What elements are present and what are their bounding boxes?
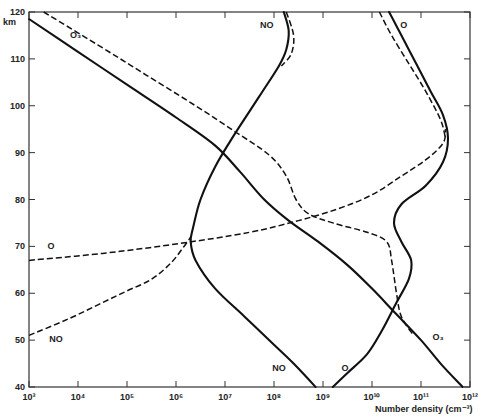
curve-label: O₃ [433,332,444,342]
y-tick-label: 100 [10,101,25,111]
curve-o-dashed-lower [29,129,446,260]
y-tick-label: 90 [15,148,25,158]
curve-label: O [400,20,407,30]
x-tick-label: 10⁵ [120,392,134,402]
curve-o3-dashed [44,12,414,335]
x-tick-label: 10⁴ [71,392,85,402]
x-tick-label: 10⁷ [218,392,232,402]
y-axis-title: km [3,17,16,27]
y-axis: 405060708090100110120 [10,7,470,392]
y-tick-label: 60 [15,288,25,298]
curve-label: NO [272,363,286,373]
curve-label: O₃ [70,30,81,40]
x-tick-label: 10⁶ [169,392,183,402]
y-tick-label: 80 [15,195,25,205]
curves [29,12,463,387]
x-tick-label: 10¹¹ [413,392,429,402]
x-axis: 10³10⁴10⁵10⁶10⁷10⁸10⁹10¹⁰10¹¹10¹² [22,12,478,402]
y-tick-label: 50 [15,335,25,345]
y-tick-label: 70 [15,241,25,251]
curve-label: O [48,241,55,251]
y-tick-label: 110 [10,54,25,64]
curve-labels: O₃NOOONONOOO₃ [48,20,444,372]
curve-o-solid [333,12,448,387]
x-tick-label: 10¹⁰ [363,392,380,402]
y-tick-label: 120 [10,7,25,17]
curve-label: NO [49,334,63,344]
curve-o-dashed-upper [379,12,445,139]
x-tick-label: 10¹² [462,392,478,402]
curve-label: O [342,363,349,373]
x-axis-title: Number density (cm⁻³) [375,404,473,414]
plot-border [29,12,470,387]
x-tick-label: 10³ [22,392,35,402]
curve-label: NO [260,20,274,30]
curve-o3-solid [29,19,463,387]
curve-no-dashed-lower [29,237,191,335]
number-density-chart: 405060708090100110120 10³10⁴10⁵10⁶10⁷10⁸… [0,0,483,417]
plot-frame [29,12,470,387]
x-tick-label: 10⁹ [316,392,330,402]
x-tick-label: 10⁸ [267,392,281,402]
y-tick-label: 40 [15,382,25,392]
